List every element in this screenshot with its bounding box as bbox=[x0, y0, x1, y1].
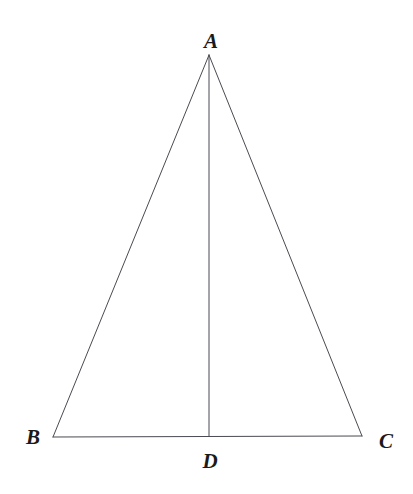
segment-ac bbox=[209, 55, 362, 436]
vertex-label-a: A bbox=[204, 31, 218, 52]
triangle-diagram bbox=[0, 0, 413, 494]
segment-bc bbox=[53, 436, 362, 437]
vertex-label-c: C bbox=[379, 431, 393, 452]
vertex-label-d: D bbox=[202, 451, 217, 472]
segment-ab bbox=[53, 55, 209, 437]
geometry-figure-canvas: A B C D bbox=[0, 0, 413, 494]
triangle-group bbox=[53, 55, 362, 437]
vertex-label-b: B bbox=[26, 427, 40, 448]
